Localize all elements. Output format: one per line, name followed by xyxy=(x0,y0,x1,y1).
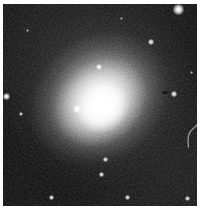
sky-field-frame xyxy=(3,4,197,206)
sky-gradient xyxy=(3,4,197,206)
image-plate xyxy=(0,0,200,210)
